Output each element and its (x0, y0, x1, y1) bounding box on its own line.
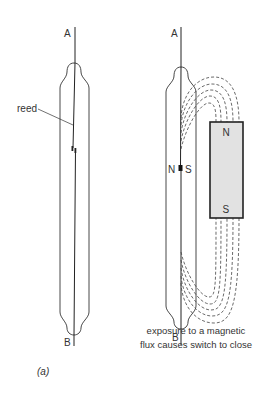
right-reed-switch: A B N S N S (166, 27, 243, 345)
caption-line-2: flux causes switch to close (140, 339, 252, 350)
left-terminal-a: A (64, 28, 71, 39)
bar-magnet: N S (210, 122, 243, 218)
left-upper-reed (73, 63, 75, 148)
contact-pole-n: N (168, 164, 175, 175)
magnet-pole-n: N (223, 127, 230, 138)
reed-switch-diagram: reed A B A B N S (0, 0, 263, 413)
right-terminal-a: A (171, 28, 178, 39)
contact-pole-s: S (185, 164, 192, 175)
left-terminal-b: B (64, 337, 71, 348)
left-upper-contact (72, 146, 74, 151)
reed-callout-line (38, 109, 73, 125)
reed-callout-label: reed (17, 103, 37, 114)
flux-lines-bottom (181, 218, 239, 323)
left-reed-switch: reed A B (17, 27, 89, 348)
panel-label: (a) (37, 366, 49, 377)
caption-line-1: exposure to a magnetic (147, 325, 246, 336)
left-lower-reed (74, 149, 76, 335)
magnet-pole-s: S (223, 204, 230, 215)
